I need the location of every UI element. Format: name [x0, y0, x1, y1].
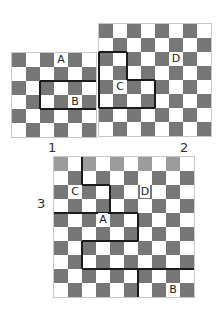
dark-square [54, 241, 68, 255]
light-square [180, 157, 194, 171]
dark-square [169, 66, 183, 80]
light-square [68, 123, 82, 137]
dark-square [99, 24, 113, 38]
dark-square [197, 38, 211, 52]
region-boundary-line [39, 81, 41, 109]
dark-square [113, 122, 127, 136]
dark-square [180, 171, 194, 185]
region-boundary-line [137, 213, 139, 241]
dark-square [12, 53, 26, 67]
square-letter-b: B [166, 283, 180, 297]
dark-square [96, 255, 110, 269]
light-square [110, 255, 124, 269]
dark-square [166, 269, 180, 283]
dark-square [54, 185, 68, 199]
region-boundary-line [81, 157, 83, 185]
light-square [68, 67, 82, 81]
dark-square [152, 171, 166, 185]
light-square [54, 81, 68, 95]
region-boundary-line [126, 52, 128, 80]
dark-square [99, 108, 113, 122]
light-square [127, 94, 141, 108]
light-square [82, 109, 96, 123]
dark-square [169, 38, 183, 52]
light-square [54, 227, 68, 241]
dark-square [54, 95, 68, 109]
dark-square [26, 95, 40, 109]
light-square [127, 122, 141, 136]
dark-square [96, 227, 110, 241]
region-boundary-line [99, 107, 155, 109]
dark-square [166, 185, 180, 199]
dark-square [180, 283, 194, 297]
region-boundary-line [81, 241, 83, 269]
light-square [166, 255, 180, 269]
dark-square [26, 123, 40, 137]
dark-square [54, 123, 68, 137]
dark-square [166, 157, 180, 171]
dark-square [110, 213, 124, 227]
light-square [180, 269, 194, 283]
dark-square [110, 241, 124, 255]
square-letter-c: C [113, 80, 127, 94]
light-square [40, 95, 54, 109]
dark-square [54, 269, 68, 283]
light-square [110, 171, 124, 185]
light-square [155, 38, 169, 52]
dark-square [82, 241, 96, 255]
light-square [124, 185, 138, 199]
light-square [82, 227, 96, 241]
dark-square [96, 283, 110, 297]
light-square [26, 109, 40, 123]
light-square [124, 157, 138, 171]
dark-square [138, 241, 152, 255]
dark-square [99, 52, 113, 66]
light-square [141, 108, 155, 122]
region-boundary-line [127, 79, 155, 81]
light-square [96, 269, 110, 283]
dark-square [40, 53, 54, 67]
dark-square [68, 81, 82, 95]
board-number-label: 2 [180, 140, 188, 155]
light-square [152, 157, 166, 171]
dark-square [152, 199, 166, 213]
dark-square [155, 108, 169, 122]
light-square [183, 122, 197, 136]
dark-square [110, 157, 124, 171]
dark-square [113, 66, 127, 80]
dark-square [26, 67, 40, 81]
dark-square [155, 80, 169, 94]
region-boundary-line [40, 80, 96, 82]
light-square [54, 199, 68, 213]
light-square [113, 108, 127, 122]
dark-square [169, 122, 183, 136]
dark-square [124, 283, 138, 297]
light-square [82, 199, 96, 213]
dark-square [82, 185, 96, 199]
light-square [138, 171, 152, 185]
light-square [26, 53, 40, 67]
light-square [68, 213, 82, 227]
dark-square [99, 80, 113, 94]
dark-square [183, 108, 197, 122]
dark-square [82, 67, 96, 81]
dark-square [197, 94, 211, 108]
dark-square [183, 52, 197, 66]
light-square [141, 80, 155, 94]
light-square [99, 38, 113, 52]
dark-square [54, 157, 68, 171]
dark-square [12, 109, 26, 123]
square-letter-d: D [169, 52, 183, 66]
light-square [166, 199, 180, 213]
dark-square [180, 255, 194, 269]
region-boundary-line [137, 269, 139, 297]
light-square [155, 66, 169, 80]
light-square [96, 241, 110, 255]
dark-square [124, 227, 138, 241]
light-square [99, 122, 113, 136]
light-square [99, 66, 113, 80]
light-square [138, 199, 152, 213]
light-square [180, 241, 194, 255]
light-square [99, 94, 113, 108]
dark-square [127, 108, 141, 122]
